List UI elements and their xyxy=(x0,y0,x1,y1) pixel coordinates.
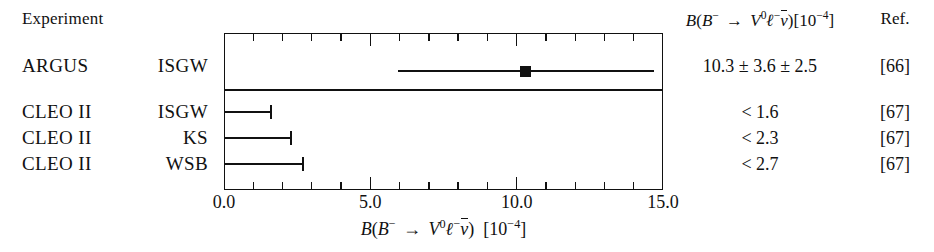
section-separator-line xyxy=(224,89,663,91)
top-tick xyxy=(282,33,283,41)
bottom-tick xyxy=(399,182,400,190)
top-tick xyxy=(370,33,371,46)
bottom-tick xyxy=(370,177,371,190)
bottom-tick xyxy=(340,182,341,190)
column-header-experiment: Experiment xyxy=(22,9,103,29)
top-tick xyxy=(604,33,605,41)
row-value-cleo-ii-isgw: < 1.6 xyxy=(660,102,860,123)
row-model-cleo-ii-ks: KS xyxy=(80,127,208,149)
row-ref-cleo-ii-wsb: [67] xyxy=(866,154,924,175)
plot-frame xyxy=(224,33,663,190)
top-tick xyxy=(340,33,341,41)
bottom-tick xyxy=(311,182,312,190)
top-tick xyxy=(516,33,517,46)
top-tick xyxy=(311,33,312,41)
column-header-reference: Ref. xyxy=(866,9,924,29)
top-tick xyxy=(457,33,458,41)
row-model-argus-isgw: ISGW xyxy=(80,55,208,77)
row-ref-cleo-ii-isgw: [67] xyxy=(866,102,924,123)
data-point-marker xyxy=(520,66,531,77)
bottom-tick xyxy=(428,182,429,190)
row-model-cleo-ii-wsb: WSB xyxy=(80,153,208,175)
bottom-tick xyxy=(545,182,546,190)
row-value-cleo-ii-wsb: < 2.7 xyxy=(660,154,860,175)
row-value-cleo-ii-ks: < 2.3 xyxy=(660,128,860,149)
bottom-tick xyxy=(575,182,576,190)
top-tick xyxy=(633,33,634,41)
branching-ratio-comparison-figure: Experiment B(B− → V0ℓ−ν)[10−4] Ref. ARGU… xyxy=(0,0,934,252)
bottom-tick xyxy=(253,182,254,190)
bottom-tick xyxy=(633,182,634,190)
top-tick xyxy=(487,33,488,41)
x-tick-label: 15.0 xyxy=(628,192,698,213)
bottom-tick xyxy=(457,182,458,190)
top-tick xyxy=(399,33,400,41)
column-header-branching-ratio: B(B− → V0ℓ−ν)[10−4] xyxy=(654,9,866,31)
row-model-cleo-ii-isgw: ISGW xyxy=(80,101,208,123)
x-tick-label: 10.0 xyxy=(482,192,552,213)
row-value-argus-isgw: 10.3 ± 3.6 ± 2.5 xyxy=(660,56,860,77)
x-axis-title: B(B− → V0ℓ−ν) [10−4] xyxy=(224,217,663,240)
top-tick xyxy=(545,33,546,41)
upper-limit-bar xyxy=(224,163,303,165)
bottom-tick xyxy=(282,182,283,190)
upper-limit-cap xyxy=(302,157,304,171)
upper-limit-bar xyxy=(224,137,291,139)
row-ref-argus-isgw: [66] xyxy=(866,56,924,77)
bottom-tick xyxy=(487,182,488,190)
top-tick xyxy=(575,33,576,41)
x-tick-label: 0.0 xyxy=(189,192,259,213)
upper-limit-cap xyxy=(270,105,272,119)
bottom-tick xyxy=(604,182,605,190)
row-experiment-argus: ARGUS xyxy=(22,55,88,77)
top-tick xyxy=(428,33,429,41)
bottom-tick xyxy=(516,177,517,190)
upper-limit-bar xyxy=(224,111,271,113)
x-tick-label: 5.0 xyxy=(335,192,405,213)
top-tick xyxy=(253,33,254,41)
row-ref-cleo-ii-ks: [67] xyxy=(866,128,924,149)
upper-limit-cap xyxy=(290,131,292,145)
